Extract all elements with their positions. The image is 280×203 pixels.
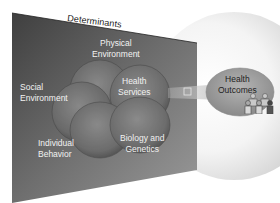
behavior-line1: Individual <box>38 138 74 149</box>
biology-line2: Genetics <box>120 144 164 155</box>
physical-line1: Physical <box>92 38 140 49</box>
behavior-line2: Behavior <box>38 149 74 160</box>
label-biology-genetics: Biology and Genetics <box>120 133 164 155</box>
biology-line1: Biology and <box>120 133 164 144</box>
social-line2: Environment <box>20 93 68 104</box>
determinants-of-health-diagram: Determinants Physical Environment Social… <box>0 0 280 203</box>
social-line1: Social <box>20 82 68 93</box>
outcomes-line1: Health <box>218 74 257 85</box>
label-physical-environment: Physical Environment <box>92 38 140 60</box>
label-social-environment: Social Environment <box>20 82 68 104</box>
services-line2: Services <box>118 87 151 98</box>
physical-line2: Environment <box>92 49 140 60</box>
services-line1: Health <box>118 76 151 87</box>
population-people-icon <box>244 92 278 114</box>
label-individual-behavior: Individual Behavior <box>38 138 74 160</box>
label-health-services: Health Services <box>118 76 151 98</box>
